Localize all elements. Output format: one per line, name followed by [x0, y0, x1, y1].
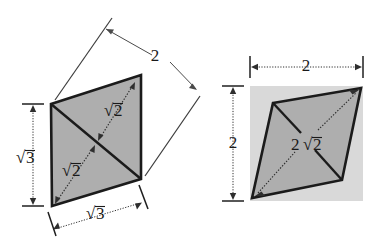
- lower-diagonal-label-group: √ 2: [62, 161, 81, 180]
- rhombus-diagonal-label-group: 2 √ 2: [291, 135, 322, 154]
- width-dimension-label: 2: [302, 56, 311, 75]
- figure-root: 2 √ 2 √ 2: [0, 0, 387, 250]
- geometry-diagram: 2 √ 2 √ 2: [0, 0, 387, 250]
- base-radical-symbol: √: [86, 204, 96, 223]
- left-slant-dimension-label: 2: [151, 46, 160, 65]
- height-radical-symbol: √: [16, 148, 26, 167]
- upper-diagonal-radical-symbol: √: [104, 101, 114, 120]
- right-height-dimension-label: 2: [229, 133, 238, 152]
- lower-diagonal-radical-symbol: √: [62, 161, 72, 180]
- upper-diagonal-label-group: √ 2: [104, 101, 123, 120]
- rhombus-diagonal-coefficient: 2: [291, 135, 300, 154]
- rhombus-diagonal-radical-symbol: √: [303, 135, 313, 154]
